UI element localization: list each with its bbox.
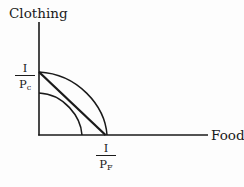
y-intercept-denominator-base: P [19, 77, 27, 91]
y-intercept-numerator: I [15, 62, 35, 75]
x-intercept-denominator: PF [96, 157, 116, 170]
y-intercept-denominator-subscript: c [27, 83, 31, 92]
x-intercept-label: I PF [96, 142, 116, 170]
x-intercept-denominator-subscript: F [107, 163, 113, 172]
plot-canvas [0, 0, 244, 187]
y-axis-title: Clothing [9, 7, 68, 21]
x-axis-title: Food [211, 129, 244, 143]
x-intercept-denominator-base: P [99, 157, 107, 171]
y-intercept-label: I Pc [15, 62, 35, 90]
x-intercept-numerator: I [96, 142, 116, 155]
inner-production-curve [39, 93, 82, 135]
economics-diagram: Clothing Food I Pc I PF [0, 0, 244, 187]
y-intercept-denominator: Pc [15, 77, 35, 90]
